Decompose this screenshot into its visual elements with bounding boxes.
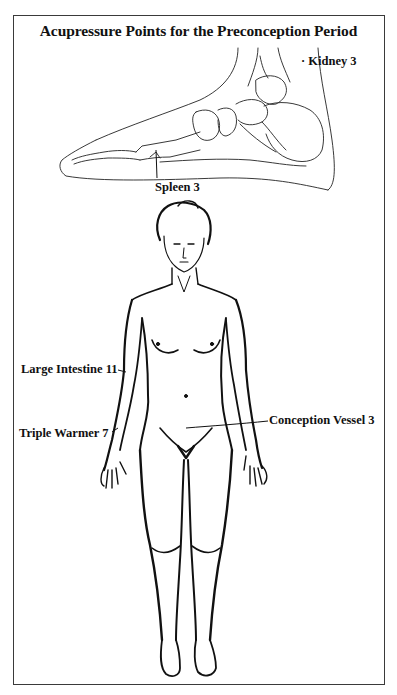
conception-vessel-3-leader bbox=[186, 421, 268, 428]
label-conception-vessel-3: Conception Vessel 3 bbox=[269, 413, 375, 428]
triple-warmer-7-leader bbox=[112, 428, 118, 432]
label-large-intestine-11: Large Intestine 11 bbox=[21, 362, 118, 377]
body-leader-lines bbox=[0, 0, 397, 695]
large-intestine-11-leader bbox=[118, 370, 126, 372]
label-triple-warmer-7: Triple Warmer 7 bbox=[19, 426, 109, 441]
